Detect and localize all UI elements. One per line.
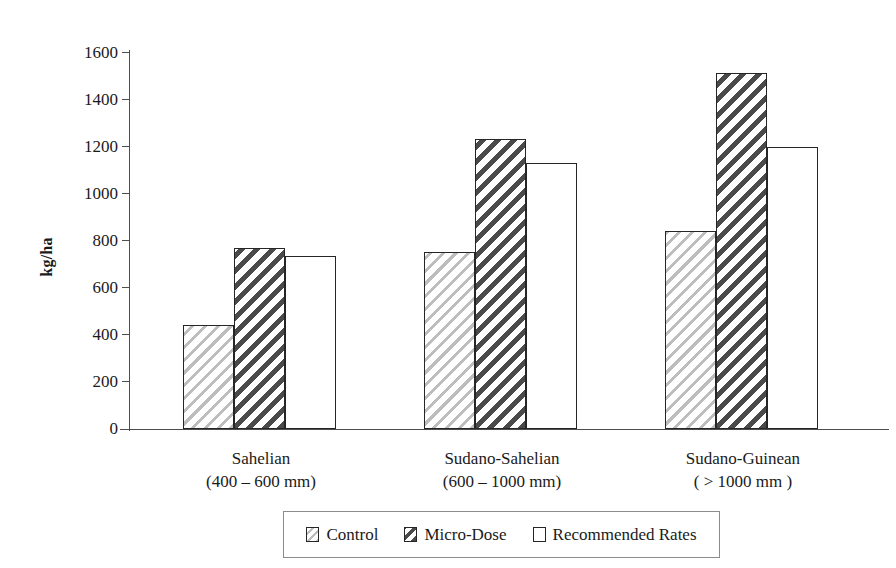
y-tick-label-1000: 1000: [58, 185, 118, 202]
bar-sahelian-micro-dose: [234, 248, 285, 429]
legend-label-recommended-rates: Recommended Rates: [553, 526, 697, 543]
x-axis-label-sudano-sahelian-name: Sudano-Sahelian: [422, 447, 582, 470]
y-tick-label-600: 600: [58, 279, 118, 296]
bar-sahelian-recommended-rates: [285, 256, 336, 429]
y-tick-label-0: 0: [58, 420, 118, 437]
bar-sudano-guinean-recommended-rates: [767, 147, 818, 429]
x-axis-label-sudano-guinean-rainfall: ( > 1000 mm ): [663, 470, 823, 493]
x-axis-label-sudano-guinean-name: Sudano-Guinean: [663, 447, 823, 470]
x-axis-label-sahelian: Sahelian (400 – 600 mm): [181, 447, 341, 493]
legend: Control Micro-Dose Recommended Rates: [283, 511, 720, 558]
legend-item-recommended-rates: Recommended Rates: [533, 526, 697, 543]
bar-chart: kg/ha 1600 1400 1200 1000 800 600 400 20…: [0, 0, 896, 568]
x-axis-label-sahelian-rainfall: (400 – 600 mm): [181, 470, 341, 493]
bar-sudano-sahelian-micro-dose: [475, 139, 526, 429]
x-axis-label-sudano-guinean: Sudano-Guinean ( > 1000 mm ): [663, 447, 823, 493]
bar-sudano-guinean-control: [665, 231, 716, 429]
legend-item-control: Control: [306, 526, 378, 543]
bar-sudano-sahelian-control: [424, 252, 475, 429]
legend-swatch-control-icon: [306, 527, 319, 542]
y-tick-label-1200: 1200: [58, 138, 118, 155]
y-tick-label-1400: 1400: [58, 91, 118, 108]
bar-sudano-sahelian-recommended-rates: [526, 163, 577, 429]
legend-swatch-recommended-rates-icon: [533, 527, 546, 542]
x-axis-label-sudano-sahelian-rainfall: (600 – 1000 mm): [422, 470, 582, 493]
y-tick-label-1600: 1600: [58, 44, 118, 61]
legend-label-control: Control: [326, 526, 378, 543]
legend-swatch-micro-dose-icon: [404, 527, 417, 542]
y-tick-label-400: 400: [58, 326, 118, 343]
y-axis-title: kg/ha: [38, 202, 56, 312]
x-axis-line: [120, 429, 889, 430]
x-axis-label-sudano-sahelian: Sudano-Sahelian (600 – 1000 mm): [422, 447, 582, 493]
x-axis-label-sahelian-name: Sahelian: [181, 447, 341, 470]
legend-label-micro-dose: Micro-Dose: [424, 526, 506, 543]
bar-sahelian-control: [183, 325, 234, 429]
y-tick-label-200: 200: [58, 373, 118, 390]
bar-sudano-guinean-micro-dose: [716, 73, 767, 429]
legend-item-micro-dose: Micro-Dose: [404, 526, 506, 543]
y-tick-label-800: 800: [58, 232, 118, 249]
plot-area: [129, 52, 889, 429]
